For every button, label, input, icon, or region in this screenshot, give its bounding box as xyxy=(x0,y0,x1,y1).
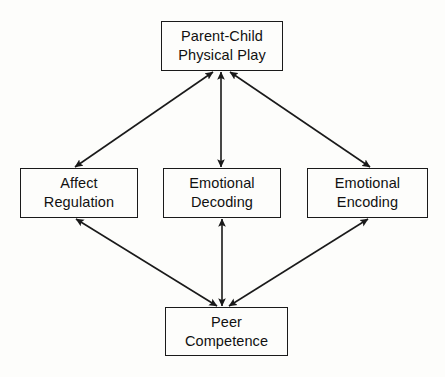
node-label-line2: Physical Play xyxy=(178,46,266,65)
node-label-line1: Parent-Child xyxy=(181,27,263,46)
edge-affect-regulation-to-peer-competence xyxy=(76,219,217,306)
edge-emotional-encoding-to-peer-competence xyxy=(229,219,368,306)
node-label-line1: Affect xyxy=(60,174,97,193)
node-label-line1: Emotional xyxy=(335,174,400,193)
node-label-line2: Competence xyxy=(185,332,268,351)
node-emotional-encoding[interactable]: Emotional Encoding xyxy=(307,168,428,218)
edge-play-to-emotional-encoding xyxy=(230,72,370,167)
edge-play-to-affect-regulation xyxy=(75,72,213,167)
node-label-line1: Peer xyxy=(211,313,242,332)
node-label-line2: Decoding xyxy=(191,193,253,212)
diagram-canvas: Parent-Child Physical Play Affect Regula… xyxy=(0,0,445,377)
node-label-line2: Regulation xyxy=(44,193,114,212)
node-peer-competence[interactable]: Peer Competence xyxy=(165,307,288,356)
node-label-line1: Emotional xyxy=(189,174,254,193)
node-affect-regulation[interactable]: Affect Regulation xyxy=(20,168,138,218)
node-emotional-decoding[interactable]: Emotional Decoding xyxy=(163,168,281,218)
node-parent-child-physical-play[interactable]: Parent-Child Physical Play xyxy=(161,21,283,71)
node-label-line2: Encoding xyxy=(337,193,398,212)
